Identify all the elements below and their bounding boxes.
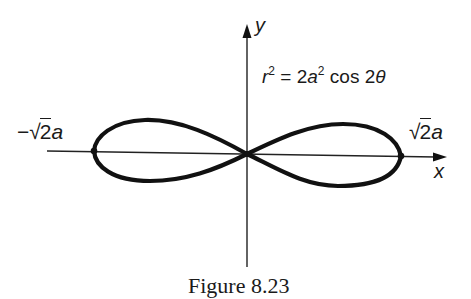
- eq-a: a: [307, 66, 318, 87]
- eq-theta: θ: [375, 66, 385, 87]
- minus-sign: −: [17, 120, 29, 143]
- eq-equals: =: [280, 66, 291, 87]
- y-axis-label: y: [255, 14, 265, 37]
- sqrt-icon: √2: [409, 118, 431, 144]
- left-intercept-label: −√2a: [17, 118, 63, 144]
- right-intercept-label: √2a: [409, 118, 443, 144]
- origin-point: [244, 151, 250, 157]
- right-vertex-point: [398, 153, 405, 160]
- y-axis-arrow-icon: [243, 24, 252, 38]
- x-axis-label: x: [434, 160, 444, 183]
- radicand: 2: [40, 118, 52, 144]
- sqrt-icon: √2: [29, 118, 51, 144]
- intercept-var: a: [431, 120, 443, 143]
- intercept-var: a: [51, 120, 63, 143]
- eq-a-exponent: 2: [318, 64, 325, 78]
- figure-caption: Figure 8.23: [188, 273, 289, 299]
- radicand: 2: [420, 118, 432, 144]
- left-vertex-point: [91, 148, 98, 155]
- eq-cos: cos 2: [330, 66, 375, 87]
- equation-label: r2 = 2a2 cos 2θ: [262, 66, 386, 88]
- eq-coef: 2: [297, 66, 308, 87]
- eq-r-exponent: 2: [268, 64, 275, 78]
